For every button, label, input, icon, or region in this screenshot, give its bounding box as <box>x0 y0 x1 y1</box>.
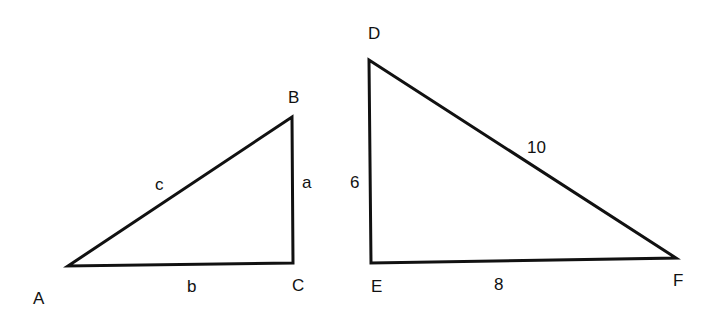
side-label-b: b <box>187 278 196 295</box>
triangle-abc <box>68 117 293 266</box>
vertex-label-e: E <box>371 278 382 295</box>
vertex-label-b: B <box>288 89 299 106</box>
triangle-def <box>369 60 676 263</box>
vertex-label-c: C <box>292 277 304 294</box>
vertex-label-f: F <box>673 272 683 289</box>
diagram-canvas <box>0 0 719 320</box>
side-label-a: a <box>302 174 311 191</box>
side-label-c: c <box>155 176 164 193</box>
side-label-df: 10 <box>527 139 546 156</box>
side-label-ef: 8 <box>494 276 503 293</box>
side-label-de: 6 <box>350 174 359 191</box>
vertex-label-d: D <box>368 25 380 42</box>
vertex-label-a: A <box>33 290 44 307</box>
